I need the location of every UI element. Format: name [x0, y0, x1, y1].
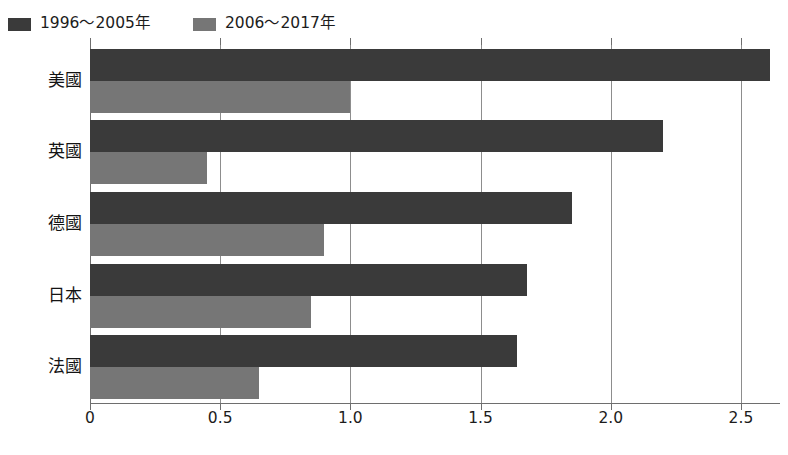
- x-axis-line: [90, 403, 780, 404]
- x-tick-top-2.0: [611, 38, 612, 45]
- x-tick-label-1.0: 1.0: [338, 411, 363, 427]
- legend-swatch-series-0: [8, 18, 31, 31]
- gridline-2.0: [611, 45, 612, 403]
- bar-日本-series-0: [90, 264, 527, 296]
- bar-法國-series-1: [90, 367, 259, 399]
- horizontal-bar-chart: 1996～2005年 2006～2017年 美國英國德國日本法國 00.51.0…: [0, 0, 788, 455]
- bar-法國-series-0: [90, 335, 517, 367]
- x-tick-label-1.5: 1.5: [468, 411, 493, 427]
- x-tick-top-1.5: [481, 38, 482, 45]
- bar-日本-series-1: [90, 296, 311, 328]
- legend-entry-series-1: 2006～2017年: [193, 12, 336, 36]
- x-tick-top-0: [90, 38, 91, 45]
- chart-legend: 1996～2005年 2006～2017年: [0, 12, 788, 36]
- x-tick-top-2.5: [741, 38, 742, 45]
- bar-德國-series-1: [90, 224, 324, 256]
- x-tick-top-1.0: [350, 38, 351, 45]
- bar-德國-series-0: [90, 192, 572, 224]
- x-tick-label-0: 0: [85, 411, 95, 427]
- category-label-法國: 法國: [48, 358, 82, 375]
- bar-美國-series-0: [90, 49, 770, 81]
- legend-label-series-0: 1996～2005年: [40, 16, 151, 32]
- x-tick-top-0.5: [220, 38, 221, 45]
- category-label-日本: 日本: [48, 287, 82, 304]
- bar-英國-series-0: [90, 120, 663, 152]
- category-label-美國: 美國: [48, 72, 82, 89]
- legend-label-series-1: 2006～2017年: [225, 16, 336, 32]
- gridline-2.5: [741, 45, 742, 403]
- x-tick-label-2.5: 2.5: [729, 411, 754, 427]
- plot-area: 美國英國德國日本法國 00.51.01.52.02.5: [90, 45, 780, 403]
- legend-swatch-series-1: [193, 18, 216, 31]
- category-label-德國: 德國: [48, 215, 82, 232]
- x-tick-label-0.5: 0.5: [208, 411, 233, 427]
- x-tick-label-2.0: 2.0: [598, 411, 623, 427]
- bar-英國-series-1: [90, 152, 207, 184]
- legend-entry-series-0: 1996～2005年: [8, 12, 151, 36]
- category-label-英國: 英國: [48, 143, 82, 160]
- bar-美國-series-1: [90, 81, 350, 113]
